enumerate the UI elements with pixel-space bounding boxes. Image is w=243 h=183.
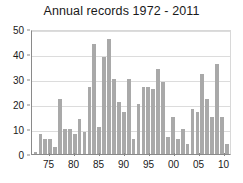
bar bbox=[176, 139, 180, 154]
bar bbox=[39, 134, 43, 154]
x-tick-label: 75 bbox=[43, 159, 54, 170]
bar bbox=[146, 87, 150, 155]
y-axis: 01020304050 bbox=[0, 30, 28, 155]
bar-series bbox=[32, 31, 230, 154]
bar bbox=[83, 132, 87, 155]
x-tick-mark bbox=[124, 153, 125, 156]
bar bbox=[53, 147, 57, 155]
bar bbox=[186, 144, 190, 154]
bar bbox=[171, 117, 175, 155]
bar bbox=[181, 129, 185, 154]
bar bbox=[117, 102, 121, 155]
y-tick-mark bbox=[27, 80, 30, 81]
y-tick-label: 10 bbox=[13, 125, 24, 136]
bar bbox=[122, 112, 126, 155]
y-tick-label: 30 bbox=[13, 75, 24, 86]
bar bbox=[161, 82, 165, 155]
y-tick-label: 20 bbox=[13, 100, 24, 111]
bar bbox=[102, 57, 106, 155]
x-tick-mark bbox=[224, 153, 225, 156]
y-tick-mark bbox=[27, 155, 30, 156]
bar bbox=[200, 74, 204, 154]
y-tick-label: 0 bbox=[18, 150, 24, 161]
bar bbox=[92, 44, 96, 154]
bar bbox=[112, 79, 116, 154]
bar bbox=[215, 64, 219, 154]
y-tick-mark bbox=[27, 105, 30, 106]
x-tick-mark bbox=[149, 153, 150, 156]
chart-title: Annual records 1972 - 2011 bbox=[0, 4, 243, 18]
y-tick-mark bbox=[27, 30, 30, 31]
bar bbox=[63, 129, 67, 154]
bar bbox=[166, 137, 170, 155]
bar bbox=[34, 152, 38, 155]
x-tick-mark bbox=[49, 153, 50, 156]
x-tick-label: 80 bbox=[68, 159, 79, 170]
bar bbox=[151, 89, 155, 154]
x-tick-label: 85 bbox=[93, 159, 104, 170]
y-tick-mark bbox=[27, 55, 30, 56]
bar bbox=[73, 134, 77, 154]
bar bbox=[142, 87, 146, 155]
bar bbox=[107, 39, 111, 154]
bar bbox=[196, 112, 200, 155]
x-tick-mark bbox=[174, 153, 175, 156]
bar bbox=[48, 139, 52, 154]
bar bbox=[68, 129, 72, 154]
x-tick-label: 10 bbox=[218, 159, 229, 170]
y-tick-label: 40 bbox=[13, 50, 24, 61]
bar bbox=[205, 99, 209, 154]
y-tick-mark bbox=[27, 130, 30, 131]
bar bbox=[78, 119, 82, 154]
x-tick-mark bbox=[99, 153, 100, 156]
bar-chart: Annual records 1972 - 2011 01020304050 7… bbox=[0, 0, 243, 183]
bar bbox=[97, 127, 101, 155]
y-tick-label: 50 bbox=[13, 25, 24, 36]
bar bbox=[58, 99, 62, 154]
x-tick-label: 05 bbox=[193, 159, 204, 170]
x-tick-mark bbox=[199, 153, 200, 156]
bar bbox=[225, 144, 229, 154]
bar bbox=[127, 79, 131, 154]
bar bbox=[137, 104, 141, 154]
bar bbox=[88, 87, 92, 155]
x-tick-label: 90 bbox=[118, 159, 129, 170]
x-tick-mark bbox=[74, 153, 75, 156]
bar bbox=[43, 139, 47, 154]
bar bbox=[220, 117, 224, 155]
bar bbox=[156, 69, 160, 154]
x-tick-label: 00 bbox=[168, 159, 179, 170]
bar bbox=[210, 117, 214, 155]
plot-area bbox=[31, 30, 231, 155]
x-axis: 7580859095000510 bbox=[31, 157, 231, 173]
bar bbox=[191, 109, 195, 154]
bar bbox=[132, 139, 136, 154]
x-tick-label: 95 bbox=[143, 159, 154, 170]
